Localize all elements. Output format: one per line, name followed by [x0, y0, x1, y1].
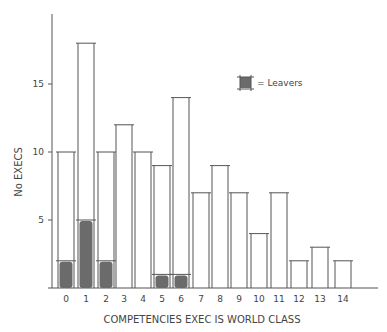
- bar-group: 10: [249, 234, 269, 304]
- x-tick-label: 12: [293, 294, 304, 304]
- x-tick-label: 0: [63, 294, 69, 304]
- x-tick-label: 8: [217, 294, 223, 304]
- x-tick-label: 4: [140, 294, 146, 304]
- bar-group: 1: [76, 43, 96, 304]
- y-tick-label: 5: [38, 215, 44, 225]
- legend-swatch: [240, 77, 251, 88]
- x-tick-label: 13: [314, 294, 325, 304]
- x-axis-label: COMPETENCIES EXEC IS WORLD CLASS: [103, 314, 300, 325]
- bar-group: 11: [269, 193, 289, 304]
- x-tick-label: 3: [121, 294, 127, 304]
- bar-group: 4: [133, 152, 153, 304]
- leavers-bar: [100, 262, 113, 288]
- bar-group: 8: [210, 166, 230, 304]
- x-tick-label: 5: [159, 294, 165, 304]
- bar-group: 2: [96, 152, 116, 304]
- leavers-bar: [80, 221, 93, 288]
- legend-label: = Leavers: [257, 78, 303, 88]
- y-tick-label: 10: [33, 147, 45, 157]
- leavers-bar: [60, 262, 73, 288]
- bar-chart: 51015 01234567891011121314 = Leavers COM…: [0, 0, 387, 332]
- bar-group: 14: [333, 261, 353, 304]
- leavers-bar: [175, 275, 188, 288]
- leavers-bar: [156, 275, 169, 288]
- y-axis-label: No EXECS: [13, 147, 24, 197]
- bar-group: 6: [171, 98, 191, 304]
- y-tick-label: 15: [33, 79, 44, 89]
- bar-group: 0: [56, 152, 76, 304]
- x-tick-label: 9: [236, 294, 242, 304]
- bar-group: 13: [310, 247, 330, 304]
- x-tick-label: 1: [83, 294, 89, 304]
- bars: 01234567891011121314: [56, 43, 353, 304]
- bar-group: 9: [229, 193, 249, 304]
- bar-group: 3: [114, 125, 134, 304]
- legend: = Leavers: [237, 75, 303, 91]
- x-tick-label: 10: [253, 294, 265, 304]
- x-tick-label: 6: [178, 294, 184, 304]
- bar-group: 7: [191, 193, 211, 304]
- bar-group: 12: [289, 261, 309, 304]
- x-tick-label: 14: [337, 294, 349, 304]
- x-tick-label: 11: [273, 294, 284, 304]
- x-tick-label: 7: [198, 294, 204, 304]
- bar-group: 5: [152, 166, 172, 304]
- x-tick-label: 2: [103, 294, 109, 304]
